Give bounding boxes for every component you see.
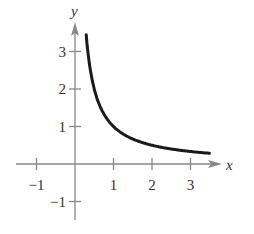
x-axis-label: x xyxy=(225,157,233,173)
y-tick-label: 2 xyxy=(59,81,67,97)
curve-line xyxy=(86,35,209,154)
y-tick-label: −1 xyxy=(50,194,66,210)
x-tick-label: 3 xyxy=(187,177,195,193)
y-tick-label: 3 xyxy=(59,44,67,60)
x-tick-label: 1 xyxy=(110,177,118,193)
y-tick-label: 1 xyxy=(59,119,67,135)
x-tick-label: −1 xyxy=(29,177,45,193)
y-axis-label: y xyxy=(69,3,78,19)
chart: −1123−1123 x y xyxy=(0,0,254,234)
x-tick-label: 2 xyxy=(148,177,156,193)
